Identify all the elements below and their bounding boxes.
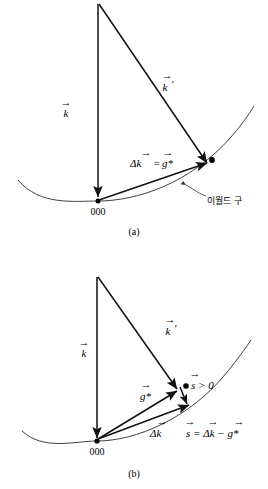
label-g-star-text-b: g* [140,390,152,402]
label-s-condition-text-b: s > 0 [191,379,214,391]
label-delta-k-equation-a: → Δk = → g* [129,146,174,169]
label-delta-k-text-b: Δk [149,427,162,439]
label-k-incident-text-b: k [82,347,88,359]
label-delta-k-arrow-b: → [157,415,168,427]
label-g-star-arrow-b: → [141,378,152,390]
label-s-equation-arrow-s-b: → [185,415,196,427]
vector-k-scattered-a [99,4,207,163]
label-k-scattered-a: → k ′ [162,69,175,93]
panel-b-svg: → k → k ′ → g* → Δk → s > 0 [0,245,268,489]
ewald-sphere-leader-a [186,185,206,196]
label-ewald-sphere-a: 이월드 구 [207,195,242,206]
reciprocal-point-dot-a [209,157,215,163]
label-s-equation-b: → → → s = Δk − g* [185,415,245,439]
origin-dot-a [96,199,101,204]
caption-b: (b) [128,468,140,480]
diagram-panel-b: → k → k ′ → g* → Δk → s > 0 [0,245,268,489]
label-origin-b: 000 [90,446,105,457]
label-delta-k-lhs-a: Δk [129,157,142,169]
label-k-incident-text-a: k [64,107,70,119]
label-s-condition-arrow-b: → [190,367,201,379]
reciprocal-point-dot-b [183,383,189,389]
label-k-scattered-prime-b: ′ [174,322,177,334]
label-k-incident-b: → k [79,336,90,359]
label-delta-k-arrow-a: → [141,146,152,158]
label-k-scattered-text-b: k [166,325,172,337]
label-s-equation-arrow-g-b: → [234,415,245,427]
origin-dot-b [94,438,99,443]
diagram-panel-a: → k → k ′ → Δk = → g* 이월드 구 000 (a) [0,0,268,245]
label-s-condition-b: → s > 0 [190,367,215,391]
panel-a-svg: → k → k ′ → Δk = → g* 이월드 구 000 (a) [0,0,268,245]
label-delta-k-eq-a: = [153,157,160,169]
label-origin-a: 000 [91,206,106,217]
label-k-scattered-prime-a: ′ [171,78,174,90]
caption-a: (a) [128,226,139,238]
label-k-scattered-text-a: k [163,81,169,93]
label-g-star-b: → g* [140,378,152,402]
figure-container: → k → k ′ → Δk = → g* 이월드 구 000 (a) [0,0,268,489]
label-delta-k-rhs-a: g* [162,157,174,169]
label-s-equation-text-b: s = Δk − g* [186,427,239,439]
label-k-incident-a: → k [61,96,72,119]
vector-delta-k-b [98,405,189,439]
label-k-scattered-b: → k ′ [165,313,178,337]
label-s-equation-arrow-dk-b: → [208,415,219,427]
vector-s-b [180,387,187,404]
